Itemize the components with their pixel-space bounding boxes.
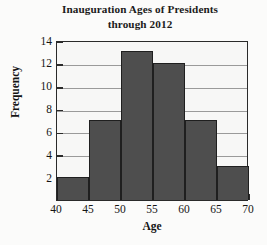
y-tick-label-4: 4: [30, 150, 52, 161]
y-tick-12: [57, 64, 63, 66]
y-tick-label-2: 2: [30, 173, 52, 184]
chart-title-line-2: through 2012: [30, 17, 250, 32]
x-tick-label-70: 70: [233, 203, 263, 215]
y-axis-title: Frequency: [9, 47, 21, 137]
y-tick-label-14: 14: [30, 36, 52, 47]
y-tick-label-8: 8: [30, 104, 52, 115]
chart-title-line-1: Inauguration Ages of Presidents: [30, 2, 250, 17]
bar-45-50: [89, 120, 121, 200]
x-tick-label-40: 40: [41, 203, 71, 215]
bar-55-60: [153, 63, 185, 200]
bar-50-55: [121, 51, 153, 200]
bar-60-65: [185, 120, 217, 200]
chart-title: Inauguration Ages of Presidents through …: [30, 2, 250, 31]
y-tick-14: [57, 41, 63, 43]
bar-40-45: [57, 177, 89, 200]
y-tick-label-6: 6: [30, 127, 52, 138]
y-tick-6: [57, 133, 63, 135]
plot-area: [56, 41, 248, 201]
x-tick-label-65: 65: [201, 203, 231, 215]
x-tick-label-55: 55: [137, 203, 167, 215]
y-tick-label-12: 12: [30, 58, 52, 69]
x-tick-label-50: 50: [105, 203, 135, 215]
y-tick-8: [57, 110, 63, 112]
y-tick-10: [57, 87, 63, 89]
x-axis-title: Age: [56, 220, 248, 232]
bar-65-70: [217, 166, 249, 200]
histogram-figure: Inauguration Ages of Presidents through …: [0, 0, 267, 245]
x-tick-label-60: 60: [169, 203, 199, 215]
y-axis-tick-labels: 2468101214: [26, 41, 52, 201]
y-tick-4: [57, 155, 63, 157]
x-axis-tick-labels: 40455055606570: [56, 203, 248, 219]
x-tick-label-45: 45: [73, 203, 103, 215]
y-tick-label-10: 10: [30, 81, 52, 92]
